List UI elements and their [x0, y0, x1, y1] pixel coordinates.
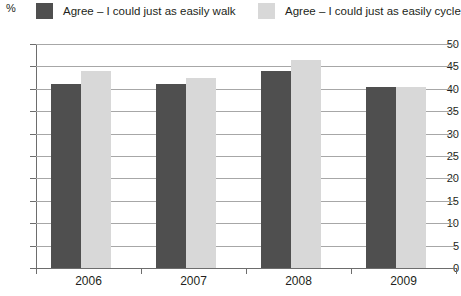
x-tick-label-2009: 2009: [354, 274, 454, 289]
bar-2009-series-0: [366, 87, 396, 268]
bar-2009-series-1: [396, 87, 426, 268]
x-tick-label-2007: 2007: [144, 274, 244, 289]
bar-2007-series-0: [156, 84, 186, 268]
chart-legend: Agree – I could just as easily walk Agre…: [0, 0, 459, 24]
legend-item-walk: Agree – I could just as easily walk: [36, 2, 236, 20]
legend-label-walk: Agree – I could just as easily walk: [63, 4, 236, 18]
x-tick-mark: [141, 268, 142, 274]
x-tick-mark: [246, 268, 247, 274]
y-axis-unit-label: %: [6, 2, 16, 14]
bar-2007-series-1: [186, 78, 216, 268]
legend-swatch-walk: [36, 3, 53, 19]
x-tick-label-2008: 2008: [249, 274, 349, 289]
plot-area: [36, 44, 456, 268]
bar-2008-series-1: [291, 60, 321, 268]
legend-swatch-cycle: [258, 3, 275, 19]
legend-item-cycle: Agree – I could just as easily cycle: [258, 2, 461, 20]
bar-2006-series-0: [51, 84, 81, 268]
x-tick-mark: [36, 268, 37, 274]
bar-2008-series-0: [261, 71, 291, 268]
bar-2006-series-1: [81, 71, 111, 268]
gridline: [36, 44, 456, 45]
x-tick-mark: [456, 268, 457, 274]
x-tick-label-2006: 2006: [39, 274, 139, 289]
legend-label-cycle: Agree – I could just as easily cycle: [285, 4, 461, 18]
x-tick-mark: [351, 268, 352, 274]
gridline: [36, 66, 456, 67]
